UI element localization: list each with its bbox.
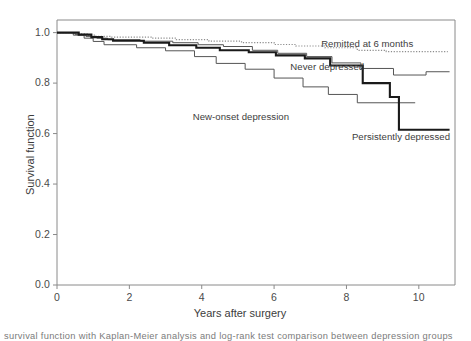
- series-label-new-onset: New-onset depression: [193, 111, 289, 122]
- xtick-label: 10: [399, 291, 439, 303]
- xtick-label: 8: [326, 291, 366, 303]
- ytick-label: 0.2: [20, 228, 50, 240]
- y-axis-title: Survival function: [24, 114, 36, 195]
- series-label-never-depressed: Never depressed: [290, 61, 364, 72]
- series-label-remitted: Remitted at 6 months: [321, 38, 413, 49]
- series-label-persistently-depressed: Persistently depressed: [352, 131, 450, 142]
- xtick-label: 2: [109, 291, 149, 303]
- ytick-label: 0.8: [20, 76, 50, 88]
- xtick-label: 0: [37, 291, 77, 303]
- xtick-label: 4: [182, 291, 222, 303]
- ytick-label: 1.0: [20, 26, 50, 38]
- ytick-label: 0.0: [20, 278, 50, 290]
- axes-frame: [57, 20, 455, 285]
- figure-caption: survival function with Kaplan-Meier anal…: [4, 331, 471, 341]
- xtick-label: 6: [254, 291, 294, 303]
- x-axis-title: Years after surgery: [180, 307, 300, 319]
